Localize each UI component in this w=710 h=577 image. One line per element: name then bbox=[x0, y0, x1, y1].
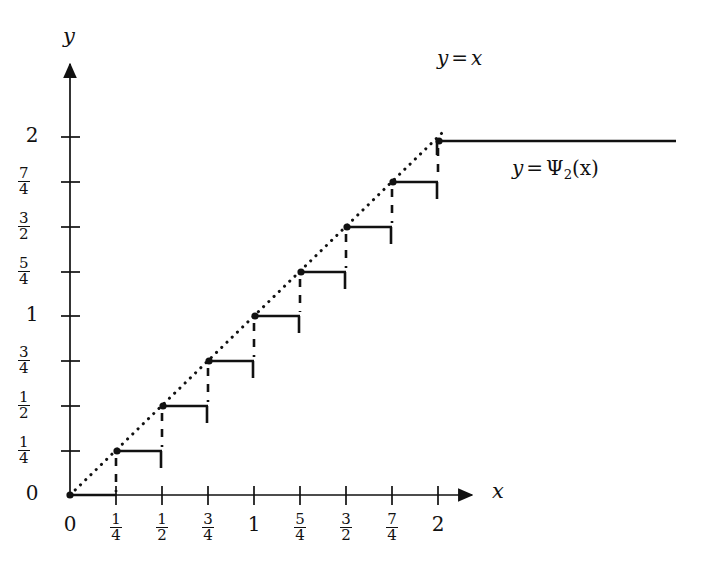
closed-point-5-4 bbox=[297, 268, 304, 275]
closed-point-2 bbox=[435, 137, 442, 144]
y-tick-label-5-4-num: 5 bbox=[18, 256, 30, 271]
y-tick-label-5-4: 5 4 bbox=[18, 256, 46, 288]
x-tick-label-1-4-den: 4 bbox=[110, 527, 122, 543]
closed-point-3-4 bbox=[205, 357, 212, 364]
x-tick-label-7-4: 7 4 bbox=[378, 512, 406, 544]
x-tick-label-1: 1 bbox=[240, 514, 268, 534]
x-tick-label-3-2: 3 2 bbox=[332, 512, 360, 544]
y-tick-label-7-4-num: 7 bbox=[18, 166, 30, 181]
y-tick-label-3-4-num: 3 bbox=[18, 345, 30, 360]
y-tick-label-1-2-num: 1 bbox=[18, 390, 30, 405]
figure-canvas: y x 2 7 4 3 2 5 4 1 3 4 1 2 1 bbox=[0, 0, 710, 577]
closed-point-0 bbox=[66, 491, 73, 498]
y-tick-label-3-2-den: 2 bbox=[18, 226, 30, 242]
y-tick-label-1-4-num: 1 bbox=[18, 435, 30, 450]
y-tick-label-3-2: 3 2 bbox=[18, 211, 46, 243]
staircase-riser-stubs bbox=[161, 141, 437, 468]
closed-point-1-4 bbox=[113, 447, 120, 454]
y-tick-label-3-4-den: 4 bbox=[18, 360, 30, 376]
identity-line-annotation: y=x bbox=[437, 48, 482, 68]
x-tick-label-1-4: 1 4 bbox=[102, 512, 130, 544]
y-tick-label-1-2: 1 2 bbox=[18, 390, 46, 422]
x-tick-label-3-4-num: 3 bbox=[202, 512, 214, 527]
x-tick-label-5-4-den: 4 bbox=[294, 527, 306, 543]
x-tick-label-5-4: 5 4 bbox=[286, 512, 314, 544]
closed-point-1 bbox=[251, 312, 258, 319]
closed-point-3-2 bbox=[343, 223, 350, 230]
x-tick-label-1-2-num: 1 bbox=[156, 512, 168, 527]
y-tick-label-3-2-num: 3 bbox=[18, 211, 30, 226]
x-tick-label-7-4-den: 4 bbox=[386, 527, 398, 543]
step-label-argument: (x) bbox=[572, 156, 599, 180]
identity-line-eq: = bbox=[448, 46, 471, 70]
y-tick-label-1-2-den: 2 bbox=[18, 405, 30, 421]
staircase-treads bbox=[70, 141, 676, 495]
x-tick-label-3-2-num: 3 bbox=[340, 512, 352, 527]
step-function-annotation: y=Ψ2(x) bbox=[512, 158, 599, 181]
x-tick-label-5-4-num: 5 bbox=[294, 512, 306, 527]
y-tick-label-1: 1 bbox=[18, 304, 46, 324]
plot-svg bbox=[0, 0, 710, 577]
identity-line-rhs: x bbox=[471, 46, 482, 70]
y-tick-label-0: 0 bbox=[18, 483, 46, 503]
step-label-lhs: y bbox=[512, 156, 523, 180]
y-tick-label-1-4-den: 4 bbox=[18, 450, 30, 466]
y-tick-label-5-4-den: 4 bbox=[18, 271, 30, 287]
x-tick-label-2: 2 bbox=[424, 514, 452, 534]
x-tick-label-1-2-den: 2 bbox=[156, 527, 168, 543]
closed-point-7-4 bbox=[389, 178, 396, 185]
y-tick-label-3-4: 3 4 bbox=[18, 345, 46, 377]
x-tick-label-3-4-den: 4 bbox=[202, 527, 214, 543]
closed-point-1-2 bbox=[159, 402, 166, 409]
x-axis-label: x bbox=[492, 481, 504, 502]
identity-line-lhs: y bbox=[437, 46, 448, 70]
y-tick-label-2: 2 bbox=[18, 125, 46, 145]
y-tick-label-1-4: 1 4 bbox=[18, 435, 46, 467]
step-label-eq: = bbox=[523, 156, 546, 180]
x-tick-label-1-2: 1 2 bbox=[148, 512, 176, 544]
y-tick-label-7-4-den: 4 bbox=[18, 181, 30, 197]
x-tick-label-0: 0 bbox=[56, 514, 84, 534]
y-axis-label: y bbox=[63, 26, 75, 47]
staircase-jump-dashes bbox=[116, 148, 438, 492]
x-tick-label-3-2-den: 2 bbox=[340, 527, 352, 543]
axis-lines bbox=[70, 64, 472, 495]
y-tick-label-7-4: 7 4 bbox=[18, 166, 46, 198]
psi-subscript: 2 bbox=[564, 167, 572, 182]
x-tick-label-3-4: 3 4 bbox=[194, 512, 222, 544]
x-tick-label-7-4-num: 7 bbox=[386, 512, 398, 527]
psi-symbol: Ψ bbox=[546, 156, 564, 180]
x-tick-label-1-4-num: 1 bbox=[110, 512, 122, 527]
